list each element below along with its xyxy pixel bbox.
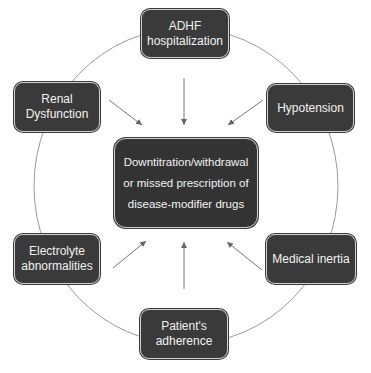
node-label: Electrolyte abnormalities [21, 244, 92, 274]
node-label: Renal Dysfunction [26, 92, 89, 122]
center-label: Downtitration/withdrawal or missed presc… [123, 152, 248, 215]
node-adhf-hospitalization: ADHF hospitalization [141, 9, 229, 58]
node-label: ADHF hospitalization [147, 19, 223, 49]
node-electrolyte-abnormalities: Electrolyte abnormalities [14, 234, 100, 284]
node-renal-dysfunction: Renal Dysfunction [14, 82, 100, 132]
arrow-electrolyte [113, 241, 146, 268]
node-label: Hypotension [277, 101, 344, 116]
arrow-renal [109, 100, 142, 125]
node-label: Patient's adherence [156, 319, 213, 349]
center-node: Downtitration/withdrawal or missed presc… [114, 138, 258, 228]
arrow-medical-inertia [227, 242, 262, 270]
node-hypotension: Hypotension [267, 84, 354, 132]
arrow-hypotension [228, 100, 263, 125]
node-patients-adherence: Patient's adherence [140, 309, 228, 359]
node-label: Medical inertia [272, 252, 349, 267]
node-medical-inertia: Medical inertia [266, 234, 356, 284]
